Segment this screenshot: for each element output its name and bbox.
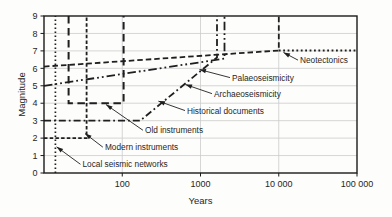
annotation-label-neotectonics: Neotectonics bbox=[300, 55, 348, 65]
annotation-label-old-instruments: Old instruments bbox=[145, 125, 203, 135]
x-tick-label: 1000 bbox=[190, 179, 210, 189]
x-tick-label: 100 000 bbox=[341, 179, 374, 189]
y-tick-label: 9 bbox=[32, 11, 37, 21]
annotation-arrow-line-old-instruments bbox=[106, 105, 143, 131]
annotation-label-modern-instruments: Modern instruments bbox=[105, 142, 178, 152]
annotation-arrowhead-archaeoseismicity bbox=[186, 85, 193, 89]
x-tick-label: 100 bbox=[115, 179, 130, 189]
y-tick-label: 1 bbox=[32, 151, 37, 161]
y-tick-label: 6 bbox=[32, 64, 37, 74]
y-tick-label: 7 bbox=[32, 46, 37, 56]
annotation-arrowhead-local-seismic-networks bbox=[57, 147, 64, 153]
annotation-label-local-seismic-networks: Local seismic networks bbox=[82, 159, 167, 169]
y-tick-label: 2 bbox=[32, 133, 37, 143]
x-tick-label: 10 000 bbox=[265, 179, 293, 189]
annotation-label-palaeoseismicity: Palaeoseismicity bbox=[232, 73, 295, 83]
seismicity-time-magnitude-chart: 0123456789100100010 000100 000YearsMagni… bbox=[0, 0, 392, 217]
series-palaeoseismicity bbox=[44, 16, 279, 67]
y-tick-label: 5 bbox=[32, 81, 37, 91]
y-tick-label: 8 bbox=[32, 29, 37, 39]
series-modern-instruments bbox=[44, 16, 87, 138]
y-axis-title: Magnitude bbox=[16, 72, 27, 116]
y-tick-label: 4 bbox=[32, 98, 37, 108]
annotation-arrowhead-old-instruments bbox=[106, 105, 113, 111]
annotation-label-archaeoseismicity: Archaeoseismicity bbox=[214, 89, 282, 99]
annotation-arrowhead-neotectonics bbox=[284, 53, 291, 58]
y-tick-label: 0 bbox=[32, 168, 37, 178]
y-tick-label: 3 bbox=[32, 116, 37, 126]
gridlines bbox=[44, 16, 357, 173]
annotation-label-historical-documents: Historical documents bbox=[187, 106, 264, 116]
series-old-instruments bbox=[69, 16, 124, 103]
x-axis-title: Years bbox=[189, 195, 213, 206]
figure: 0123456789100100010 000100 000YearsMagni… bbox=[0, 0, 392, 217]
annotations: Local seismic networksModern instruments… bbox=[57, 52, 348, 169]
